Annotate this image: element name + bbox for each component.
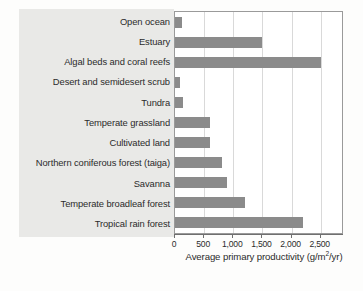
category-label: Open ocean [14, 16, 173, 27]
x-axis-title-tail: /yr) [329, 251, 342, 262]
category-label: Temperate grassland [14, 117, 173, 128]
bar [175, 157, 222, 168]
bar-row [175, 173, 342, 193]
x-axis-tick [261, 234, 262, 238]
bar [175, 197, 245, 208]
x-axis-tick [320, 234, 321, 238]
category-label: Cultivated land [14, 137, 173, 148]
bar [175, 177, 227, 188]
x-axis-tick-label: 1,500 [251, 239, 272, 249]
category-axis-labels: Open ocean Estuary Algal beds and coral … [14, 11, 173, 234]
bar [175, 17, 182, 28]
x-axis-tick-label: 2,500 [309, 239, 330, 249]
x-axis-tick-label: 2,000 [280, 239, 301, 249]
bar-row [175, 112, 342, 132]
bar [175, 217, 303, 228]
bar-series [175, 12, 342, 233]
x-axis-tick [203, 234, 204, 238]
bar [175, 77, 180, 88]
x-axis-title-main: Average primary productivity (g/m [186, 251, 326, 262]
x-axis-line [174, 234, 343, 235]
bar-row [175, 32, 342, 52]
category-label: Northern coniferous forest (taiga) [14, 157, 173, 168]
x-axis-tick [232, 234, 233, 238]
bar-row [175, 72, 342, 92]
category-label: Temperate broadleaf forest [14, 198, 173, 209]
x-axis-tick-label: 500 [196, 239, 210, 249]
bar-row [175, 193, 342, 213]
bar-row [175, 213, 342, 233]
bar [175, 37, 262, 48]
plot-panel [174, 11, 343, 234]
bar [175, 57, 321, 68]
category-label: Algal beds and coral reefs [14, 56, 173, 67]
bar-row [175, 12, 342, 32]
bar-row [175, 153, 342, 173]
category-label: Savanna [14, 178, 173, 189]
bar [175, 97, 183, 108]
bar [175, 137, 210, 148]
bar-row [175, 92, 342, 112]
bar-row [175, 52, 342, 72]
x-axis-tick-label: 1,000 [222, 239, 243, 249]
bar-chart-figure: Open ocean Estuary Algal beds and coral … [0, 0, 363, 291]
bar [175, 117, 210, 128]
chart-plot-wrapper: Open ocean Estuary Algal beds and coral … [0, 0, 363, 291]
bar-row [175, 133, 342, 153]
x-axis-tick-label: 0 [172, 239, 177, 249]
x-axis-tick [291, 234, 292, 238]
category-label: Tropical rain forest [14, 218, 173, 229]
category-label: Estuary [14, 36, 173, 47]
x-axis-tick [174, 234, 175, 238]
category-label: Desert and semidesert scrub [14, 76, 173, 87]
x-axis-title: Average primary productivity (g/m2/yr) [174, 251, 354, 262]
category-label: Tundra [14, 97, 173, 108]
